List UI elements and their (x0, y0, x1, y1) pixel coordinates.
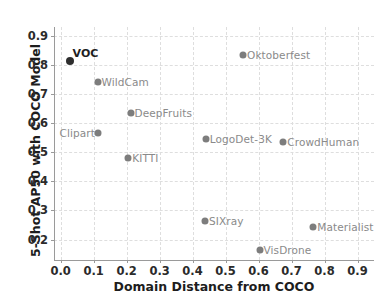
plot-area: VOCWildCamDeepFruitsClipartKITTIOktoberf… (54, 27, 374, 260)
y-tick-mark (51, 240, 54, 241)
data-point (280, 138, 287, 145)
y-tick-label: 0.7 (28, 87, 48, 101)
x-tick-mark (292, 260, 293, 263)
data-point (202, 136, 209, 143)
point-label: Oktoberfest (247, 49, 310, 61)
x-tick-mark (61, 260, 62, 263)
point-label: Clipart (59, 127, 94, 139)
y-gridline (54, 210, 374, 211)
x-gridline (94, 27, 95, 260)
data-point (94, 130, 101, 137)
y-tick-mark (51, 36, 54, 37)
data-point (310, 223, 317, 230)
y-gridline (54, 65, 374, 66)
point-label: KITTI (132, 152, 158, 164)
x-tick-label: 0.7 (281, 264, 301, 278)
y-tick-mark (51, 210, 54, 211)
x-gridline (61, 27, 62, 260)
y-tick-mark (51, 152, 54, 153)
y-tick-label: 0.5 (28, 145, 48, 159)
y-axis-spine (54, 27, 55, 260)
x-tick-label: 0.6 (248, 264, 268, 278)
y-gridline (54, 152, 374, 153)
x-gridline (127, 27, 128, 260)
y-gridline (54, 123, 374, 124)
point-label: SIXray (209, 215, 244, 227)
y-tick-label: 0.4 (28, 174, 48, 188)
point-label: WildCam (102, 76, 149, 88)
x-tick-label: 0.4 (182, 264, 202, 278)
y-gridline (54, 94, 374, 95)
x-tick-label: 0.2 (116, 264, 136, 278)
x-tick-label: 0.9 (347, 264, 367, 278)
x-gridline (160, 27, 161, 260)
x-axis-title: Domain Distance from COCO (54, 279, 374, 294)
x-tick-mark (226, 260, 227, 263)
x-axis-spine (54, 260, 374, 261)
x-tick-mark (160, 260, 161, 263)
x-tick-mark (358, 260, 359, 263)
y-gridline (54, 240, 374, 241)
y-gridline (54, 181, 374, 182)
y-tick-label: 0.3 (28, 203, 48, 217)
point-label: CrowdHuman (287, 136, 359, 148)
point-label: VOC (72, 47, 98, 60)
x-tick-label: 0.0 (50, 264, 70, 278)
x-tick-mark (127, 260, 128, 263)
y-tick-label: 0.8 (28, 58, 48, 72)
y-tick-mark (51, 94, 54, 95)
point-label: VisDrone (264, 244, 312, 256)
x-tick-label: 0.5 (215, 264, 235, 278)
y-gridline (54, 36, 374, 37)
x-tick-mark (259, 260, 260, 263)
x-tick-label: 0.1 (83, 264, 103, 278)
data-point (240, 51, 247, 58)
x-tick-mark (193, 260, 194, 263)
data-point (125, 154, 132, 161)
scatter-plot-figure: VOCWildCamDeepFruitsClipartKITTIOktoberf… (0, 0, 389, 298)
x-tick-label: 0.3 (149, 264, 169, 278)
x-gridline (193, 27, 194, 260)
y-tick-mark (51, 65, 54, 66)
x-tick-mark (94, 260, 95, 263)
y-tick-mark (51, 123, 54, 124)
data-point (256, 247, 263, 254)
point-label: DeepFruits (135, 107, 192, 119)
point-label: Materialist (317, 221, 373, 233)
data-point (127, 109, 134, 116)
x-tick-mark (325, 260, 326, 263)
point-label: LogoDet-3K (210, 133, 272, 145)
x-tick-label: 0.8 (314, 264, 334, 278)
data-point (94, 79, 101, 86)
y-tick-label: 0.6 (28, 116, 48, 130)
data-point (202, 217, 209, 224)
y-tick-label: 0.9 (28, 29, 48, 43)
y-tick-mark (51, 181, 54, 182)
y-tick-label: 0.2 (28, 233, 48, 247)
